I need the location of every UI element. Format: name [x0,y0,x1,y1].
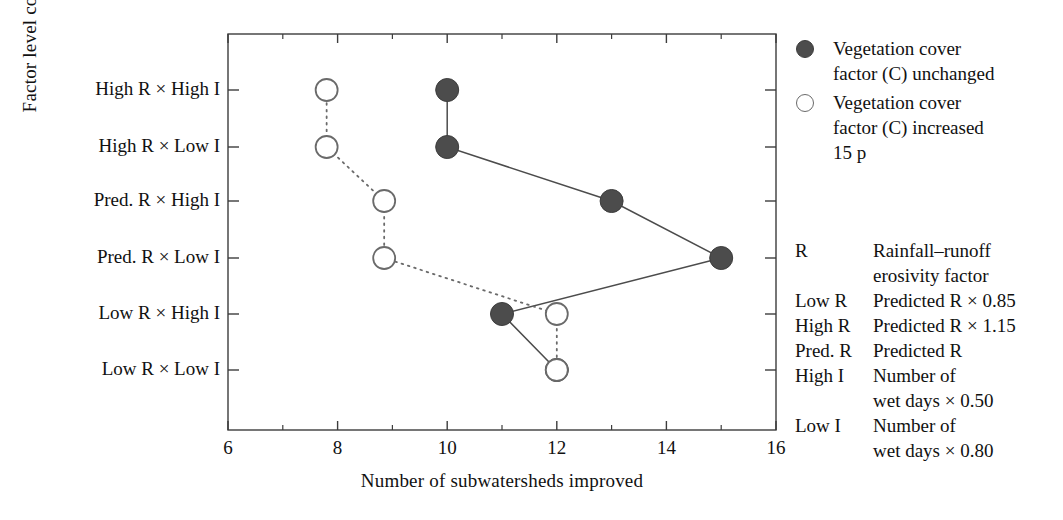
data-point-open [546,303,568,325]
data-point-filled [710,247,733,270]
note-row: High RPredicted R × 1.15 [795,313,1063,338]
note-key: Low I [795,413,873,438]
legend-marker-dot [796,40,814,58]
y-tick-label: Pred. R × Low I [60,247,220,267]
x-tick-label: 6 [206,437,250,459]
note-row: Low INumber of wet days × 0.80 [795,413,1063,463]
legend-item[interactable]: Vegetation cover factor (C) unchanged [795,36,1057,86]
data-point-open [373,247,395,269]
series-line-0 [447,90,721,370]
ticks-layer [228,34,776,430]
axes-frame [228,34,776,430]
y-tick-label: Low R × Low I [60,359,220,379]
x-tick-label: 8 [316,437,360,459]
abbreviation-notes: RRainfall–runoff erosivity factorLow RPr… [795,238,1063,463]
series-line-1 [327,90,557,370]
x-tick-label: 16 [754,437,798,459]
data-point-filled [436,79,459,102]
y-axis-title: Factor level combination [16,0,44,160]
data-point-open [316,136,338,158]
legend-marker-dot [796,94,814,112]
legend-item-label: Vegetation cover factor (C) unchanged [833,36,994,86]
x-tick-label: 10 [425,437,469,459]
note-key: High I [795,363,873,388]
note-key: Low R [795,288,873,313]
open-circle-icon [795,93,817,115]
series-layer [316,79,733,382]
data-point-filled [491,303,514,326]
note-row: Pred. RPredicted R [795,338,1063,363]
note-key: Pred. R [795,338,873,363]
filled-circle-icon [795,39,817,61]
y-tick-label: Low R × High I [60,303,220,323]
note-row: High INumber of wet days × 0.50 [795,363,1063,413]
data-point-open [546,359,568,381]
note-value: Predicted R × 0.85 [873,288,1063,313]
x-tick-label: 14 [644,437,688,459]
data-point-open [373,190,395,212]
note-value: Number of wet days × 0.50 [873,363,1063,413]
chart-legend: Vegetation cover factor (C) unchangedVeg… [795,36,1057,169]
legend-item-label: Vegetation cover factor (C) increased 15… [833,90,984,165]
data-point-filled [436,136,459,159]
legend-item[interactable]: Vegetation cover factor (C) increased 15… [795,90,1057,165]
note-key: R [795,238,873,263]
note-value: Rainfall–runoff erosivity factor [873,238,1063,288]
note-value: Predicted R [873,338,1063,363]
figure-root: Factor level combination High R × High I… [0,0,1063,520]
note-value: Number of wet days × 0.80 [873,413,1063,463]
y-tick-label: High R × Low I [60,136,220,156]
note-row: Low RPredicted R × 0.85 [795,288,1063,313]
data-point-open [316,79,338,101]
note-value: Predicted R × 1.15 [873,313,1063,338]
plot-frame [228,34,776,430]
x-tick-label: 12 [535,437,579,459]
note-key: High R [795,313,873,338]
y-tick-labels: High R × High IHigh R × Low IPred. R × H… [58,0,220,460]
note-row: RRainfall–runoff erosivity factor [795,238,1063,288]
y-tick-label: Pred. R × High I [60,190,220,210]
y-tick-label: High R × High I [60,79,220,99]
data-point-filled [600,190,623,213]
x-axis-title: Number of subwatersheds improved [228,470,776,492]
